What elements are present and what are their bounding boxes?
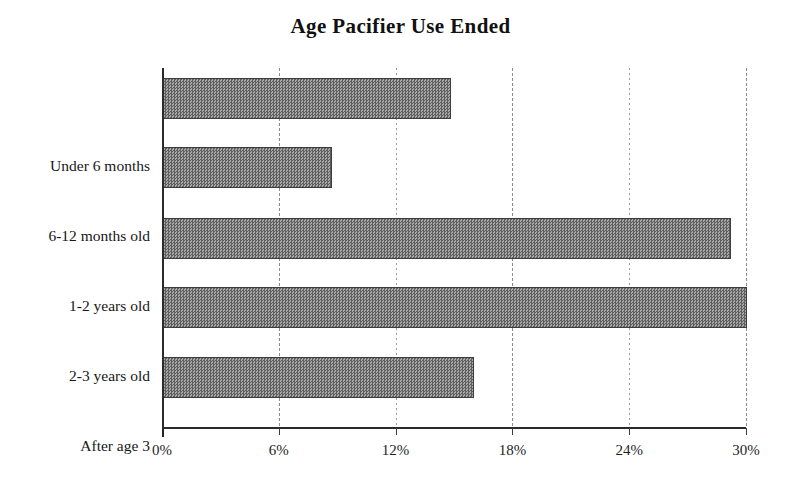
category-label-under-6-months: Under 6 months xyxy=(0,157,150,175)
category-label-after-age-3: After age 3 xyxy=(0,437,150,455)
gridline-30 xyxy=(746,68,747,428)
tick-mark-30 xyxy=(746,428,747,435)
category-label-6-12-months-old: 6-12 months old xyxy=(0,227,150,245)
x-tick-label-6: 6% xyxy=(269,442,289,459)
bar-6-12-months-old xyxy=(163,147,332,188)
x-tick-label-0: 0% xyxy=(152,442,172,459)
bar-after-age-3 xyxy=(163,357,474,398)
category-label-2-3-years-old: 2-3 years old xyxy=(0,367,150,385)
tick-mark-0 xyxy=(162,428,164,437)
x-tick-label-30: 30% xyxy=(732,442,760,459)
plot-area: 0% 6% 12% 18% 24% 30% xyxy=(162,68,746,428)
y-axis-line xyxy=(162,68,164,428)
x-axis-line xyxy=(162,427,746,429)
tick-mark-6 xyxy=(279,428,280,435)
x-tick-label-24: 24% xyxy=(615,442,643,459)
bar-chart: Age Pacifier Use Ended Under 6 months 6-… xyxy=(0,0,801,492)
category-label-1-2-years-old: 1-2 years old xyxy=(0,297,150,315)
tick-mark-24 xyxy=(629,428,630,435)
chart-title: Age Pacifier Use Ended xyxy=(0,14,801,39)
x-tick-label-18: 18% xyxy=(499,442,527,459)
bar-2-3-years-old xyxy=(163,287,747,328)
tick-mark-12 xyxy=(396,428,397,435)
bar-under-6-months xyxy=(163,78,451,119)
tick-mark-18 xyxy=(512,428,513,435)
x-tick-label-12: 12% xyxy=(382,442,410,459)
bar-1-2-years-old xyxy=(163,218,731,259)
y-axis-category-labels: Under 6 months 6-12 months old 1-2 years… xyxy=(0,68,162,428)
